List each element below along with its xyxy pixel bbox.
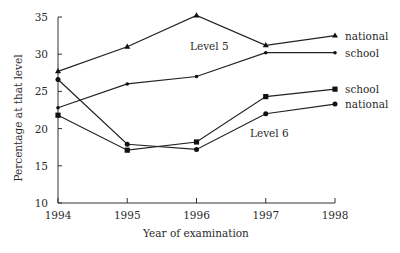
series-level-6-national: national [56, 77, 389, 152]
dot-marker [195, 75, 199, 79]
dot-marker [56, 106, 60, 110]
x-tick-label: 1995 [114, 209, 141, 221]
circle-marker [56, 77, 61, 82]
y-axis-label: Percentage at that level [12, 54, 24, 182]
series-end-label: school [345, 83, 380, 95]
square-marker [194, 139, 199, 144]
series-group: nationalschoolschoolnational [55, 12, 389, 152]
annotation-level5: Level 5 [190, 40, 229, 52]
y-tick-label: 30 [35, 48, 48, 60]
x-axis-label: Year of examination [142, 227, 249, 239]
series-end-label: school [345, 47, 380, 59]
circle-marker [125, 142, 130, 147]
x-tick-label: 1996 [183, 209, 210, 221]
square-marker [125, 148, 130, 153]
x-tick-label: 1997 [252, 209, 279, 221]
y-tick-label: 10 [35, 197, 48, 209]
square-marker [263, 94, 268, 99]
series-end-label: national [345, 30, 389, 42]
square-marker [55, 113, 60, 118]
y-tick-label: 15 [35, 160, 48, 172]
square-marker [332, 87, 337, 92]
triangle-marker [332, 32, 338, 37]
series-end-label: national [345, 98, 389, 110]
x-tick-label: 1994 [45, 209, 72, 221]
dot-marker [125, 82, 129, 86]
series-level-5-school: school [56, 47, 379, 110]
triangle-marker [194, 12, 200, 17]
circle-marker [194, 147, 199, 152]
y-tick-label: 20 [35, 123, 48, 135]
y-tick-label: 35 [35, 11, 48, 23]
series-level-6-school: school [55, 83, 379, 153]
annotation-level6: Level 6 [250, 127, 289, 139]
dot-marker [333, 51, 337, 55]
dot-marker [264, 51, 268, 55]
circle-marker [333, 102, 338, 107]
x-tick-label: 1998 [322, 209, 349, 221]
line-chart: 10152025303519941995199619971998 nationa… [0, 0, 400, 253]
y-tick-label: 25 [35, 85, 48, 97]
circle-marker [263, 111, 268, 116]
